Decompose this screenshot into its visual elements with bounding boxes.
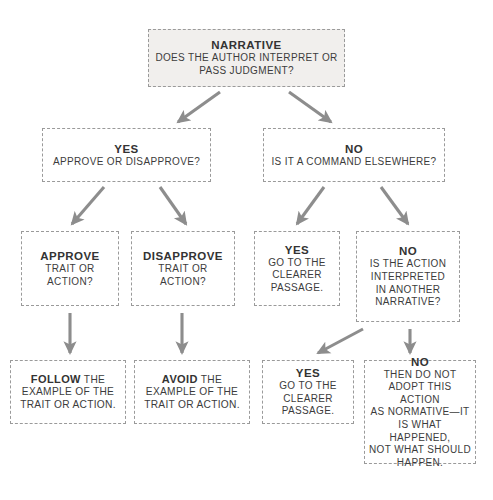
- node-approve-heading: APPROVE: [40, 249, 99, 263]
- node-avoid-line2: EXAMPLE OF THE: [146, 386, 238, 399]
- node-avoid-line1: AVOID THE: [162, 373, 222, 387]
- arrow-yes-to-disapprove: [160, 187, 186, 224]
- node-no-another-line4: NARRATIVE?: [375, 296, 441, 309]
- arrow-yes-to-approve: [72, 187, 104, 224]
- node-yes-clearer-upper-heading: YES: [285, 243, 309, 257]
- node-yes-approve-heading: YES: [114, 142, 138, 156]
- node-yes-approve-line1: APPROVE OR DISAPPROVE?: [53, 156, 200, 169]
- node-yes-clearer-upper-line2: CLEARER: [272, 269, 322, 282]
- node-avoid-rest: THE: [198, 374, 222, 385]
- node-follow-line3: TRAIT OR ACTION.: [20, 399, 116, 412]
- node-no-do-not-adopt[interactable]: NO THEN DO NOT ADOPT THIS ACTION AS NORM…: [364, 360, 476, 464]
- node-follow-lead: FOLLOW: [31, 373, 81, 385]
- node-yes-clearer-passage-lower[interactable]: YES GO TO THE CLEARER PASSAGE.: [262, 360, 354, 424]
- node-follow-line1: FOLLOW THE: [31, 373, 105, 387]
- node-no-command-line1: IS IT A COMMAND ELSEWHERE?: [271, 156, 436, 169]
- node-disapprove-line1: TRAIT OR ACTION?: [135, 263, 231, 288]
- node-follow-rest: THE: [81, 374, 105, 385]
- node-no-adopt-heading: NO: [411, 355, 429, 369]
- node-yes-clearer-lower-line2: CLEARER: [283, 393, 333, 406]
- node-no-adopt-line2: ADOPT THIS ACTION: [368, 381, 472, 406]
- node-no-another-narrative[interactable]: NO IS THE ACTION INTERPRETED IN ANOTHER …: [356, 231, 460, 322]
- node-no-command-elsewhere[interactable]: NO IS IT A COMMAND ELSEWHERE?: [263, 128, 445, 182]
- node-disapprove[interactable]: DISAPPROVE TRAIT OR ACTION?: [131, 231, 235, 306]
- node-disapprove-heading: DISAPPROVE: [143, 249, 223, 263]
- node-approve-line2: ACTION?: [47, 276, 93, 289]
- node-avoid-example[interactable]: AVOID THE EXAMPLE OF THE TRAIT OR ACTION…: [134, 360, 250, 424]
- node-no-another-line3: IN ANOTHER: [376, 284, 441, 297]
- node-no-adopt-line1: THEN DO NOT: [384, 369, 457, 382]
- node-no-another-heading: NO: [399, 244, 417, 258]
- node-yes-clearer-upper-line1: GO TO THE: [268, 257, 326, 270]
- node-yes-clearer-upper-line3: PASSAGE.: [271, 282, 324, 295]
- node-no-another-line2: INTERPRETED: [371, 271, 445, 284]
- arrow-no-to-no-another: [381, 187, 408, 224]
- node-avoid-lead: AVOID: [162, 373, 198, 385]
- node-yes-clearer-lower-line1: GO TO THE: [279, 380, 337, 393]
- top-caption: [32, 0, 272, 3]
- node-yes-clearer-lower-line3: PASSAGE.: [282, 405, 335, 418]
- node-no-adopt-line4: IS WHAT HAPPENED,: [368, 419, 472, 444]
- node-yes-clearer-lower-heading: YES: [296, 366, 320, 380]
- arrow-another-to-yes-clearer: [318, 329, 363, 353]
- flowchart-diagram: NARRATIVE DOES THE AUTHOR INTERPRET OR P…: [0, 0, 493, 500]
- node-follow-example[interactable]: FOLLOW THE EXAMPLE OF THE TRAIT OR ACTIO…: [10, 360, 126, 424]
- node-narrative[interactable]: NARRATIVE DOES THE AUTHOR INTERPRET OR P…: [148, 29, 345, 87]
- node-approve[interactable]: APPROVE TRAIT OR ACTION?: [21, 231, 119, 306]
- node-follow-line2: EXAMPLE OF THE: [22, 386, 114, 399]
- node-narrative-heading: NARRATIVE: [211, 38, 281, 52]
- node-yes-approve-or-disapprove[interactable]: YES APPROVE OR DISAPPROVE?: [42, 128, 211, 182]
- node-avoid-line3: TRAIT OR ACTION.: [144, 399, 240, 412]
- node-no-another-line1: IS THE ACTION: [370, 258, 447, 271]
- arrow-narrative-to-no: [289, 92, 331, 122]
- node-no-adopt-line5: NOT WHAT SHOULD: [369, 444, 471, 457]
- node-narrative-line2: PASS JUDGMENT?: [199, 65, 294, 78]
- node-no-adopt-line3: AS NORMATIVE—IT: [371, 406, 470, 419]
- node-yes-clearer-passage-upper[interactable]: YES GO TO THE CLEARER PASSAGE.: [254, 231, 340, 306]
- arrow-narrative-to-yes: [178, 92, 220, 122]
- arrow-no-to-yes-clearer: [297, 187, 324, 224]
- node-approve-line1: TRAIT OR: [45, 263, 94, 276]
- node-no-command-heading: NO: [345, 142, 363, 156]
- node-no-adopt-line6: HAPPEN.: [397, 457, 443, 470]
- node-narrative-line1: DOES THE AUTHOR INTERPRET OR: [155, 52, 337, 65]
